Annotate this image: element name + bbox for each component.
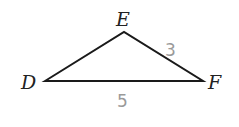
triangle-def (45, 32, 203, 81)
triangle-diagram: D E F 3 5 (0, 0, 239, 127)
vertex-label-f: F (207, 71, 222, 93)
vertex-label-d: D (20, 71, 36, 93)
triangle-canvas: D E F 3 5 (0, 0, 239, 127)
vertex-label-e: E (115, 8, 130, 30)
side-label-ef: 3 (165, 40, 176, 60)
side-label-df: 5 (117, 91, 128, 111)
